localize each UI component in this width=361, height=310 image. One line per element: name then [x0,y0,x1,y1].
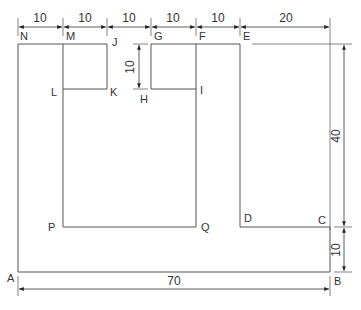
label-b: B [334,275,341,287]
dim-ab-horizontal: 70 [18,274,330,296]
dim-fe: 10 [211,11,225,25]
label-p: P [48,221,55,233]
dim-jg: 10 [122,11,136,25]
label-j: J [112,36,118,48]
point-labels: N M J G F E L K H I P Q D C A B [7,30,341,287]
label-h: H [140,93,148,105]
label-e: E [243,30,250,42]
label-k: K [110,86,118,98]
label-a: A [7,272,15,284]
label-l: L [51,86,57,98]
label-g: G [154,30,163,42]
dim-gf: 10 [166,11,180,25]
outer-outline [18,44,330,272]
svg-text:70: 70 [167,274,181,288]
svg-text:10: 10 [123,60,137,74]
dim-ec-vertical: 40 [329,45,344,226]
box-gfih [151,44,196,89]
label-m: M [66,30,75,42]
label-q: Q [201,221,210,233]
label-d: D [244,212,252,224]
box-mjkl [63,44,107,89]
floor-plan-diagram: 10 10 10 10 10 20 10 40 10 70 N M J G F [0,0,361,310]
dim-e-right: 20 [279,11,293,25]
label-f: F [199,30,206,42]
dim-gh-vertical: 10 [123,44,148,89]
label-n: N [20,30,28,42]
label-i: I [200,84,203,96]
dim-mj: 10 [78,11,92,25]
svg-text:40: 40 [329,129,343,143]
top-dimensions: 10 10 10 10 10 20 [19,11,329,27]
label-c: C [318,214,326,226]
svg-text:10: 10 [329,243,343,257]
dim-nm: 10 [33,11,47,25]
top-extension-lines [18,18,330,230]
dim-cb-vertical: 10 [329,228,344,271]
